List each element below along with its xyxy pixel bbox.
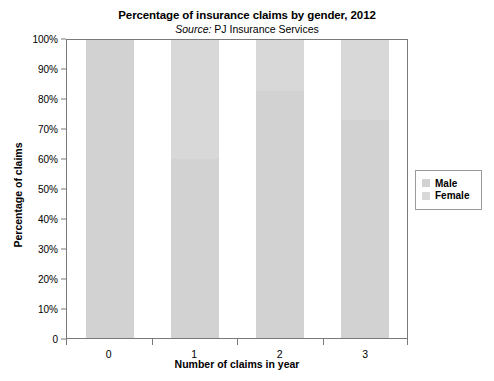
y-axis-label: Percentage of claims: [12, 95, 24, 295]
y-axis-tick-label: 100%: [32, 34, 58, 45]
y-axis-tick-label: 40%: [38, 214, 58, 225]
y-axis-tick-label: 90%: [38, 64, 58, 75]
x-axis-label: Number of claims in year: [66, 358, 408, 370]
y-axis-tick-label: 0: [52, 334, 58, 345]
x-axis-tick-mark: [152, 339, 153, 345]
y-axis-tick-label: 70%: [38, 124, 58, 135]
y-axis-tick-label: 20%: [38, 274, 58, 285]
bar-slot: [237, 40, 322, 338]
bar-slot: [152, 40, 237, 338]
stacked-bar[interactable]: [256, 40, 304, 338]
bar-slot: [67, 40, 152, 338]
chart-title: Percentage of insurance claims by gender…: [0, 9, 494, 21]
bar-segment-male[interactable]: [341, 120, 389, 338]
legend-item-female[interactable]: Female: [422, 190, 475, 201]
stacked-bar[interactable]: [171, 40, 219, 338]
bar-segment-male[interactable]: [86, 40, 134, 338]
bar-segment-male[interactable]: [171, 159, 219, 338]
chart-subtitle: Source: PJ Insurance Services: [0, 23, 494, 35]
stacked-bar[interactable]: [86, 40, 134, 338]
bar-segment-female[interactable]: [256, 40, 304, 91]
bar-slot: [322, 40, 407, 338]
subtitle-source-prefix: Source:: [175, 23, 211, 35]
y-axis: 100%90%80%70%60%50%40%30%20%10%0: [0, 39, 66, 339]
legend-label: Male: [435, 178, 457, 189]
plot-area: [66, 39, 408, 339]
x-axis-tick-mark: [66, 339, 67, 345]
y-axis-tick-label: 10%: [38, 304, 58, 315]
x-axis-tick-mark: [407, 339, 408, 345]
bar-segment-female[interactable]: [171, 40, 219, 159]
chart-legend: MaleFemale: [415, 170, 482, 210]
x-axis-tick-mark: [323, 339, 324, 345]
bar-segment-female[interactable]: [341, 40, 389, 120]
x-axis-tick-mark: [237, 339, 238, 345]
bar-segment-male[interactable]: [256, 91, 304, 338]
legend-swatch-icon: [422, 179, 430, 187]
bar-series-container: [67, 40, 407, 338]
y-axis-tick-label: 30%: [38, 244, 58, 255]
y-axis-tick-label: 60%: [38, 154, 58, 165]
y-axis-tick-label: 80%: [38, 94, 58, 105]
subtitle-source-text: PJ Insurance Services: [214, 23, 318, 35]
chart-figure: Percentage of insurance claims by gender…: [0, 0, 494, 381]
legend-label: Female: [435, 190, 469, 201]
y-axis-tick-label: 50%: [38, 184, 58, 195]
stacked-bar[interactable]: [341, 40, 389, 338]
legend-item-male[interactable]: Male: [422, 178, 475, 189]
legend-swatch-icon: [422, 192, 430, 200]
